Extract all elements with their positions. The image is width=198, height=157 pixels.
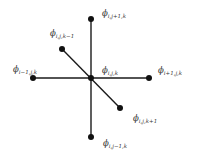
label-down: ϕi,j−1,k	[103, 138, 128, 150]
label-back: ϕi,j,k−1	[50, 28, 74, 40]
node-up	[88, 16, 94, 22]
labels: ϕi,j+1,k ϕi,j,k−1 ϕi−1,j,k ϕi,j,k ϕi+1,j…	[13, 8, 183, 150]
label-center: ϕi,j,k	[102, 65, 119, 77]
node-down	[88, 134, 94, 140]
node-left	[30, 75, 36, 81]
stencil-diagram: ϕi,j+1,k ϕi,j,k−1 ϕi−1,j,k ϕi,j,k ϕi+1,j…	[0, 0, 198, 157]
node-right	[146, 75, 152, 81]
node-center	[88, 75, 94, 81]
label-front: ϕi,j,k+1	[133, 113, 157, 125]
label-right: ϕi+1,j,k	[158, 65, 183, 77]
label-left: ϕi−1,j,k	[13, 64, 38, 76]
node-front	[117, 105, 123, 111]
label-up: ϕi,j+1,k	[102, 8, 127, 20]
node-back	[59, 46, 65, 52]
